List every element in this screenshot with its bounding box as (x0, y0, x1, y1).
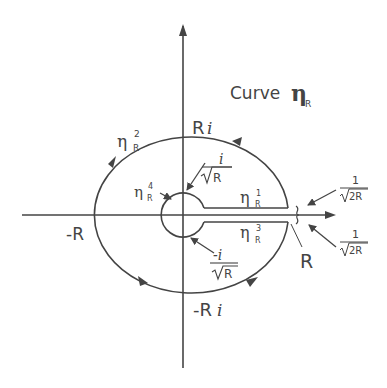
svg-text:η: η (117, 131, 127, 151)
svg-text:η: η (240, 223, 250, 242)
imaginary-axis-arrow-icon (179, 24, 187, 36)
axes (22, 24, 336, 368)
svg-text:1: 1 (256, 189, 261, 198)
svg-text:R: R (147, 194, 153, 203)
annotation-i-over-sqrtR: i R (201, 151, 232, 185)
pointer-eta4 (160, 193, 171, 199)
svg-text:i: i (217, 300, 222, 320)
svg-text:η: η (134, 183, 143, 201)
label-minus-R: -R (66, 224, 84, 244)
label-R: R (300, 250, 313, 272)
svg-text:1: 1 (352, 174, 359, 187)
svg-text:2R: 2R (349, 191, 362, 202)
label-eta2: η 2 R (117, 129, 140, 153)
svg-text:3: 3 (256, 224, 261, 233)
annotation-1-over-sqrt2R-bottom: 1 2R (340, 228, 368, 256)
svg-text:R: R (224, 267, 232, 281)
svg-text:R: R (192, 117, 205, 138)
annotation-minus-i-over-sqrtR: -i R (210, 247, 238, 281)
svg-text:-i: -i (213, 247, 222, 263)
svg-text:R: R (255, 236, 261, 245)
svg-text:R: R (213, 171, 221, 185)
title-subscript: R (305, 99, 311, 109)
svg-text:4: 4 (148, 182, 153, 191)
svg-text:2: 2 (134, 129, 140, 139)
label-eta1: η 1 R (240, 188, 261, 209)
svg-text:R: R (133, 143, 139, 153)
label-minus-Ri: -R i (193, 299, 222, 320)
svg-text:R: R (255, 200, 261, 209)
pointer-gap-bottom (309, 225, 336, 247)
pointer-R (291, 224, 302, 247)
pointer-gap-top (308, 190, 336, 205)
svg-text:η: η (240, 188, 250, 207)
annotation-1-over-sqrt2R-top: 1 2R (340, 174, 368, 202)
label-Ri: R i (192, 117, 212, 138)
svg-text:1: 1 (352, 228, 359, 241)
svg-text:-R: -R (193, 299, 212, 320)
label-eta3: η 3 R (240, 223, 261, 245)
real-axis-arrow-icon (325, 211, 336, 219)
title: Curve η R (230, 80, 311, 109)
title-word: Curve (230, 83, 280, 103)
pointer-small-bottom (191, 238, 214, 253)
svg-text:i: i (207, 118, 212, 138)
svg-text:i: i (219, 151, 223, 167)
label-eta4: η 4 R (134, 182, 153, 203)
svg-text:2R: 2R (349, 245, 362, 256)
keyhole-contour-diagram: Curve η R R i -R i -R R η 2 R η 4 R η 1 … (0, 0, 387, 388)
